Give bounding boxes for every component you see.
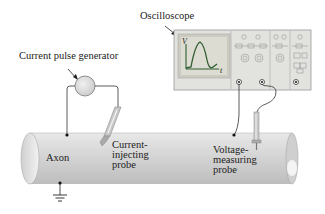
diagram-canvas <box>0 0 325 214</box>
pulse-generator-label: Current pulse generator <box>19 51 118 61</box>
screen-v-label: V <box>182 37 187 47</box>
ground-icon <box>53 181 67 201</box>
reference-wire <box>234 84 239 135</box>
screen-t-label: t <box>220 66 222 76</box>
axon-label: Axon <box>46 153 69 163</box>
oscilloscope <box>165 26 311 90</box>
oscilloscope-label: Oscilloscope <box>140 11 194 21</box>
current-probe-label: Current- injecting probe <box>112 140 149 170</box>
voltage-probe-label: Voltage- measuring probe <box>213 145 257 175</box>
